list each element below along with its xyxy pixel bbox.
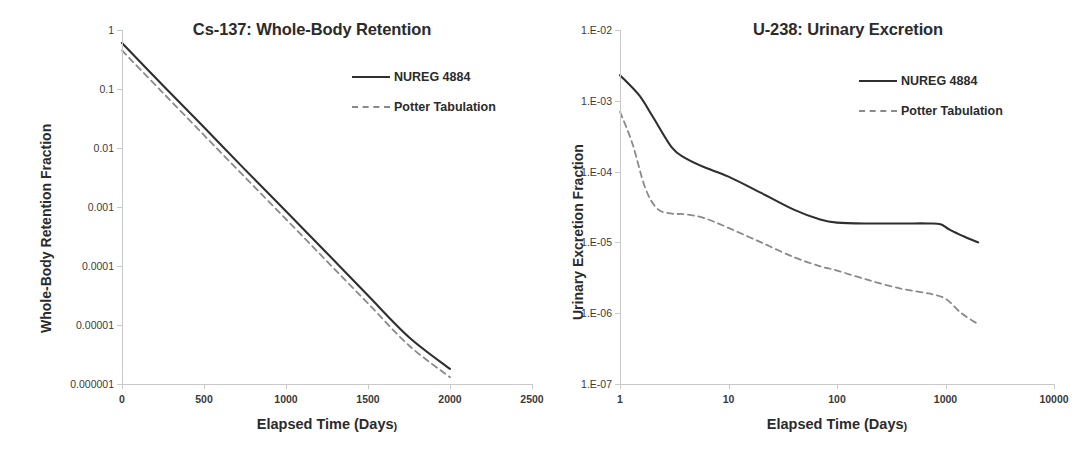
y-tick-label: 0.000001: [32, 378, 114, 390]
x-tick-label: 10: [723, 393, 735, 405]
line-solid-icon: [859, 76, 897, 86]
x-tick-mark: [286, 384, 287, 389]
y-tick-mark: [117, 266, 122, 267]
figure-container: Cs-137: Whole-Body Retention 10.10.010.0…: [0, 0, 1092, 462]
x-axis-title-cs137: Elapsed Time (Days): [167, 416, 487, 432]
legend-u238: NUREG 4884 Potter Tabulation: [859, 70, 1003, 130]
legend-label-nureg: NUREG 4884: [901, 74, 977, 88]
y-axis-line-cs137: [122, 30, 123, 385]
legend-item-nureg[interactable]: NUREG 4884: [352, 66, 496, 88]
x-tick-mark: [122, 384, 123, 389]
x-tick-mark: [620, 384, 621, 389]
y-tick-mark: [615, 172, 620, 173]
x-tick-label: 10000: [1039, 393, 1068, 405]
y-axis-line-u238: [620, 30, 621, 385]
y-axis-title-cs137: Whole-Body Retention Fraction: [38, 124, 54, 333]
legend-item-potter[interactable]: Potter Tabulation: [352, 96, 496, 118]
x-axis-line-cs137: [122, 384, 533, 385]
y-tick-mark: [117, 30, 122, 31]
x-axis-title-text: Elapsed Time (Days: [767, 416, 904, 432]
x-tick-label: 1500: [356, 393, 379, 405]
y-tick-label: 1.E-03: [530, 95, 612, 107]
chart-panel-u238: U-238: Urinary Excretion 1.E-021.E-031.E…: [546, 0, 1092, 462]
x-tick-mark: [946, 384, 947, 389]
y-tick-mark: [117, 325, 122, 326]
x-axis-title-text: Elapsed Time (Days: [257, 416, 394, 432]
x-tick-label: 1: [617, 393, 623, 405]
y-tick-mark: [117, 207, 122, 208]
y-tick-mark: [117, 89, 122, 90]
y-tick-mark: [615, 101, 620, 102]
y-axis-title-u238: Urinary Excretion Fraction: [570, 144, 586, 320]
x-tick-label: 1000: [274, 393, 297, 405]
legend-item-potter[interactable]: Potter Tabulation: [859, 100, 1003, 122]
line-dashed-icon: [352, 102, 390, 112]
y-tick-label: 0.1: [32, 83, 114, 95]
legend-cs137: NUREG 4884 Potter Tabulation: [352, 66, 496, 126]
x-tick-mark: [368, 384, 369, 389]
x-tick-label: 0: [119, 393, 125, 405]
y-tick-label: 1.E-02: [530, 24, 612, 36]
x-tick-label: 2500: [520, 393, 543, 405]
legend-label-potter: Potter Tabulation: [901, 104, 1003, 118]
legend-item-nureg[interactable]: NUREG 4884: [859, 70, 1003, 92]
y-tick-mark: [615, 30, 620, 31]
legend-label-nureg: NUREG 4884: [394, 70, 470, 84]
x-axis-title-paren: ): [904, 420, 908, 432]
y-tick-mark: [615, 242, 620, 243]
y-tick-label: 1: [32, 24, 114, 36]
chart-panel-cs137: Cs-137: Whole-Body Retention 10.10.010.0…: [0, 0, 546, 462]
x-tick-label: 2000: [438, 393, 461, 405]
y-tick-label: 1.E-07: [530, 378, 612, 390]
x-tick-mark: [1054, 384, 1055, 389]
line-dashed-icon: [859, 106, 897, 116]
x-axis-title-paren: ): [394, 420, 398, 432]
x-tick-mark: [837, 384, 838, 389]
y-tick-mark: [117, 148, 122, 149]
y-tick-mark: [615, 313, 620, 314]
x-tick-label: 500: [195, 393, 213, 405]
legend-label-potter: Potter Tabulation: [394, 100, 496, 114]
x-tick-mark: [729, 384, 730, 389]
x-tick-label: 1000: [934, 393, 957, 405]
series-line-potter-tabulation: [620, 112, 978, 324]
x-tick-label: 100: [828, 393, 846, 405]
line-solid-icon: [352, 72, 390, 82]
x-tick-mark: [450, 384, 451, 389]
x-tick-mark: [204, 384, 205, 389]
x-axis-title-u238: Elapsed Time (Days): [677, 416, 997, 432]
